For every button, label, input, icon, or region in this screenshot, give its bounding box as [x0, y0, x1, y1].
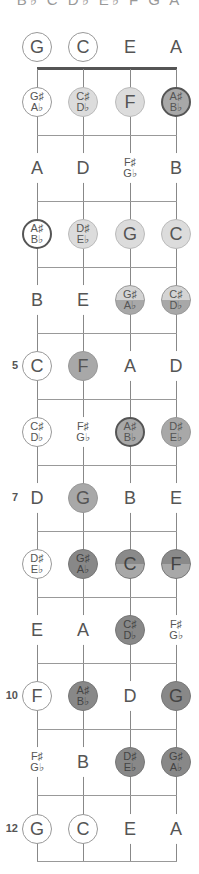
note-marker: G♯A♭	[22, 87, 52, 117]
fret-line-12	[37, 861, 177, 862]
fret-line-8	[37, 597, 177, 598]
note-marker: F♯G♭	[68, 417, 98, 447]
note-marker: D♯E♭	[115, 747, 145, 777]
fret-line-11	[37, 795, 177, 796]
note-name: C	[77, 820, 90, 838]
fret-line-9	[37, 663, 177, 664]
note-marker: D♯E♭	[22, 549, 52, 579]
note-enharmonic: E♭	[124, 762, 136, 773]
fret-number: 10	[4, 689, 18, 701]
note-enharmonic: G♭	[76, 432, 90, 443]
note-enharmonic: G♭	[30, 762, 44, 773]
note-marker: G	[68, 483, 98, 513]
note-marker: E	[161, 483, 191, 513]
note-marker: F♯G♭	[161, 615, 191, 645]
note-enharmonic: B♭	[170, 102, 182, 113]
note-name: G	[76, 489, 90, 507]
note-marker: A♯B♭	[68, 681, 98, 711]
note-name: A	[77, 621, 89, 639]
note-name: C	[77, 38, 90, 56]
note-enharmonic: E♭	[31, 564, 43, 575]
note-name: D	[31, 489, 44, 507]
note-marker: A	[68, 615, 98, 645]
nut	[37, 67, 177, 70]
note-marker: G	[115, 219, 145, 249]
note-name: C	[170, 225, 183, 243]
fret-number: 5	[4, 359, 18, 371]
note-name: F	[171, 555, 182, 573]
note-marker: A♯B♭	[22, 219, 52, 249]
fret-number: 7	[4, 491, 18, 503]
note-marker: F	[68, 351, 98, 381]
fret-line-3	[37, 267, 177, 268]
note-marker: C	[68, 814, 98, 844]
note-enharmonic: G♭	[169, 630, 183, 641]
note-marker: G♯A♭	[68, 549, 98, 579]
note-name: E	[124, 820, 136, 838]
note-name: E	[31, 621, 43, 639]
note-marker: A	[22, 153, 52, 183]
note-name: A	[170, 38, 182, 56]
note-name: A	[31, 159, 43, 177]
note-marker: E	[22, 615, 52, 645]
note-enharmonic: A♭	[77, 564, 89, 575]
note-marker: C♯D♭	[68, 87, 98, 117]
fretboard-diagram: 571012GCEAG♯A♭C♯D♭FA♯B♭ADF♯G♭BA♯B♭D♯E♭GC…	[0, 0, 199, 874]
note-marker: C	[22, 351, 52, 381]
note-name: F	[78, 357, 89, 375]
note-marker: D	[115, 681, 145, 711]
note-marker: D	[22, 483, 52, 513]
note-marker: G♯A♭	[115, 285, 145, 315]
note-name: A	[170, 820, 182, 838]
note-marker: B	[68, 747, 98, 777]
note-marker: A♯B♭	[115, 417, 145, 447]
note-enharmonic: A♭	[124, 300, 136, 311]
fret-line-6	[37, 465, 177, 466]
note-marker: G	[161, 681, 191, 711]
note-name: B	[77, 753, 89, 771]
note-name: G	[123, 225, 137, 243]
note-enharmonic: E♭	[170, 432, 182, 443]
note-marker: C♯D♭	[22, 417, 52, 447]
note-enharmonic: B♭	[124, 432, 136, 443]
note-marker: D♯E♭	[161, 417, 191, 447]
note-enharmonic: B♭	[31, 234, 43, 245]
note-name: B	[124, 489, 136, 507]
note-marker: B	[115, 483, 145, 513]
note-marker: C	[68, 32, 98, 62]
note-marker: F	[161, 549, 191, 579]
note-marker: F	[115, 87, 145, 117]
note-marker: F	[22, 681, 52, 711]
note-name: B	[31, 291, 43, 309]
note-name: F	[32, 687, 43, 705]
note-marker: A	[115, 351, 145, 381]
note-marker: D	[68, 153, 98, 183]
fret-line-5	[37, 399, 177, 400]
note-name: C	[124, 555, 137, 573]
note-marker: E	[115, 32, 145, 62]
note-name: D	[124, 687, 137, 705]
note-marker: B	[161, 153, 191, 183]
note-name: G	[169, 687, 183, 705]
note-marker: C	[161, 219, 191, 249]
note-marker: G♯A♭	[161, 747, 191, 777]
note-enharmonic: A♭	[31, 102, 43, 113]
note-marker: D	[161, 351, 191, 381]
note-enharmonic: A♭	[170, 762, 182, 773]
note-enharmonic: D♭	[31, 432, 44, 443]
note-marker: F♯G♭	[115, 153, 145, 183]
note-marker: A♯B♭	[161, 87, 191, 117]
note-name: G	[30, 38, 44, 56]
note-enharmonic: G♭	[123, 168, 137, 179]
note-name: D	[170, 357, 183, 375]
note-name: C	[31, 357, 44, 375]
fret-line-7	[37, 531, 177, 532]
note-enharmonic: E♭	[77, 234, 89, 245]
note-name: D	[77, 159, 90, 177]
fret-number: 12	[4, 822, 18, 834]
note-marker: E	[115, 814, 145, 844]
note-name: G	[30, 820, 44, 838]
note-name: B	[170, 159, 182, 177]
note-marker: E	[68, 285, 98, 315]
note-marker: G	[22, 814, 52, 844]
